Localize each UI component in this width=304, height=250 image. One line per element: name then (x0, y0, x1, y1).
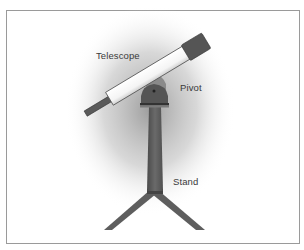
telescope-diagram (0, 0, 304, 250)
label-pivot: Pivot (180, 82, 202, 93)
stand-column (147, 107, 163, 191)
label-telescope: Telescope (96, 50, 140, 61)
label-stand: Stand (173, 176, 198, 187)
